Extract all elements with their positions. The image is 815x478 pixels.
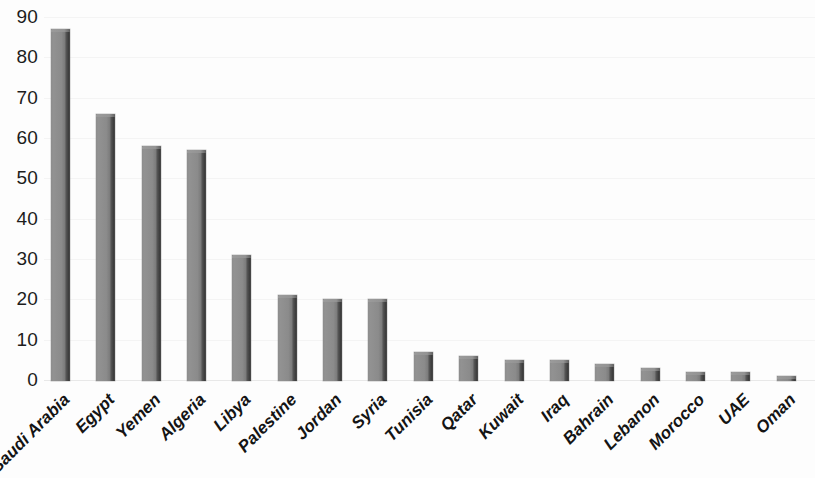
x-axis-tick: Kuwait bbox=[498, 386, 543, 478]
bar-slot bbox=[770, 0, 815, 381]
bar-slot bbox=[135, 0, 180, 381]
bar[interactable] bbox=[414, 352, 433, 381]
y-axis-tick-label: 40 bbox=[16, 208, 38, 230]
bar-slot bbox=[679, 0, 724, 381]
bar-top-cap bbox=[641, 368, 660, 371]
y-axis-tick-label: 90 bbox=[16, 6, 38, 28]
bar-top-cap bbox=[686, 372, 705, 375]
bar-slot bbox=[498, 0, 543, 381]
bar[interactable] bbox=[278, 295, 297, 381]
y-axis-tick-label: 20 bbox=[16, 288, 38, 310]
x-axis-tick: Jordan bbox=[316, 386, 361, 478]
bar-top-cap bbox=[731, 372, 750, 375]
bar-slot bbox=[407, 0, 452, 381]
bar[interactable] bbox=[686, 372, 705, 381]
bar-chart: 9080706050403020100 Saudi ArabiaEgyptYem… bbox=[0, 0, 815, 478]
y-axis-tick-label: 10 bbox=[16, 329, 38, 351]
bar-top-cap bbox=[187, 150, 206, 153]
bar[interactable] bbox=[368, 299, 387, 381]
bar-slot bbox=[271, 0, 316, 381]
bars-layer bbox=[44, 0, 815, 381]
bar-slot bbox=[180, 0, 225, 381]
y-axis-tick-label: 60 bbox=[16, 127, 38, 149]
bar-slot bbox=[225, 0, 270, 381]
bar-slot bbox=[89, 0, 134, 381]
x-axis-tick-label: Iraq bbox=[537, 390, 573, 426]
bar-top-cap bbox=[505, 360, 524, 363]
x-axis-tick: Morocco bbox=[679, 386, 724, 478]
bar-top-cap bbox=[232, 255, 251, 258]
bar-top-cap bbox=[595, 364, 614, 367]
bar-top-cap bbox=[51, 29, 70, 32]
bar-slot bbox=[316, 0, 361, 381]
bar[interactable] bbox=[777, 376, 796, 381]
bar[interactable] bbox=[51, 29, 70, 381]
y-axis-tick-label: 30 bbox=[16, 248, 38, 270]
x-axis-tick: Algeria bbox=[180, 386, 225, 478]
y-axis: 9080706050403020100 bbox=[0, 0, 44, 478]
bar-slot bbox=[724, 0, 769, 381]
bar[interactable] bbox=[505, 360, 524, 381]
bar-top-cap bbox=[368, 299, 387, 302]
bar-slot bbox=[588, 0, 633, 381]
bar[interactable] bbox=[187, 150, 206, 381]
bar-slot bbox=[361, 0, 406, 381]
bar-slot bbox=[452, 0, 497, 381]
bar-slot bbox=[543, 0, 588, 381]
x-axis-tick: Tunisia bbox=[407, 386, 452, 478]
bar-top-cap bbox=[142, 146, 161, 149]
bar-top-cap bbox=[550, 360, 569, 363]
bar[interactable] bbox=[142, 146, 161, 381]
bar[interactable] bbox=[595, 364, 614, 381]
bar[interactable] bbox=[550, 360, 569, 381]
y-axis-tick-label: 0 bbox=[27, 369, 38, 391]
y-axis-tick-label: 50 bbox=[16, 167, 38, 189]
bar-top-cap bbox=[323, 299, 342, 302]
bar-top-cap bbox=[278, 295, 297, 298]
bar[interactable] bbox=[459, 356, 478, 381]
bar[interactable] bbox=[323, 299, 342, 381]
bar[interactable] bbox=[641, 368, 660, 381]
x-axis-tick: Oman bbox=[770, 386, 815, 478]
x-axis-labels: Saudi ArabiaEgyptYemenAlgeriaLibyaPalest… bbox=[44, 386, 815, 478]
bar-top-cap bbox=[459, 356, 478, 359]
bar-slot bbox=[634, 0, 679, 381]
bar[interactable] bbox=[731, 372, 750, 381]
bar-top-cap bbox=[414, 352, 433, 355]
bar-slot bbox=[44, 0, 89, 381]
bar[interactable] bbox=[232, 255, 251, 381]
bar[interactable] bbox=[96, 114, 115, 381]
y-axis-tick-label: 80 bbox=[16, 46, 38, 68]
bar-top-cap bbox=[96, 114, 115, 117]
y-axis-tick-label: 70 bbox=[16, 87, 38, 109]
bar-top-cap bbox=[777, 376, 796, 379]
